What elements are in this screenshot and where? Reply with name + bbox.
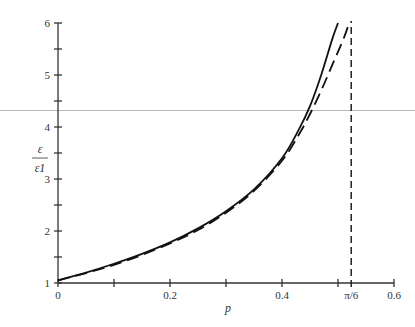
ylabel-numerator: ε (38, 142, 43, 156)
x-tick-label: 0.4 (275, 289, 289, 301)
y-tick-label: 2 (45, 225, 51, 237)
series-dashed (58, 23, 349, 280)
y-tick-label: 5 (45, 69, 51, 81)
y-tick-label: 1 (45, 277, 51, 289)
x-tick-label: 0.6 (387, 289, 401, 301)
y-tick-label: 6 (45, 17, 51, 29)
ylabel-denominator: ε1 (35, 161, 46, 175)
axes: 00.20.40.6123456π/6 (45, 17, 402, 301)
y-tick-label: 3 (45, 173, 51, 185)
x-tick-label: 0.2 (163, 289, 177, 301)
series-solid (58, 23, 338, 280)
y-tick-label: 4 (45, 121, 51, 133)
asymptote-label: π/6 (344, 289, 359, 301)
xlabel: p (224, 301, 231, 315)
x-tick-label: 0 (55, 289, 61, 301)
chart: 00.20.40.6123456π/6 ε ε1 p (0, 0, 415, 327)
plot-area (58, 21, 351, 287)
